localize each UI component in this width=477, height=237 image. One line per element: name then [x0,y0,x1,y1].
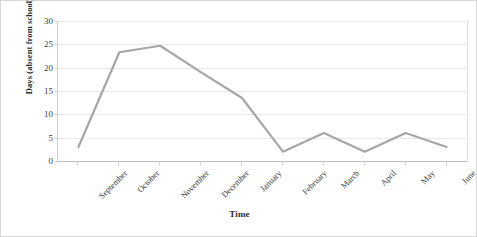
x-tick-mark [200,162,201,165]
y-tick-label: 25 [44,39,53,49]
y-tick-label: 20 [44,63,53,73]
y-tick-label: 30 [44,16,53,26]
x-tick-mark [77,162,78,165]
y-tick-label: 5 [49,133,54,143]
x-tick-mark [118,162,119,165]
x-axis-title: Time [1,209,477,219]
x-tick-label-november: November [179,168,211,200]
y-axis-title: Days (absent from school) [24,0,34,126]
series-line-group [58,21,467,161]
x-tick-label-may: May [418,168,436,186]
x-tick-mark [364,162,365,165]
y-tick-label: 10 [44,109,53,119]
x-tick-label-february: February [300,168,329,197]
x-tick-mark [282,162,283,165]
x-tick-label-december: December [219,168,251,200]
x-tick-label-april: April [378,168,398,188]
x-tick-mark [241,162,242,165]
x-tick-label-june: June [459,168,477,186]
x-tick-label-march: March [338,168,361,191]
x-tick-label-october: October [135,168,161,194]
x-tick-mark [405,162,406,165]
x-tick-label-january: January [258,168,284,194]
x-tick-mark [159,162,160,165]
y-tick-label: 15 [44,86,53,96]
series-line-days-absent [78,46,446,152]
x-tick-mark [323,162,324,165]
y-tick-label: 0 [49,156,54,166]
line-chart-figure: Days (absent from school) 051015202530 S… [0,0,477,237]
plot-area: 051015202530 [57,21,468,162]
x-axis-tick-labels: SeptemberOctoberNovemberDecemberJanuaryF… [57,162,466,208]
x-tick-mark [446,162,447,165]
x-tick-label-september: September [97,168,130,201]
